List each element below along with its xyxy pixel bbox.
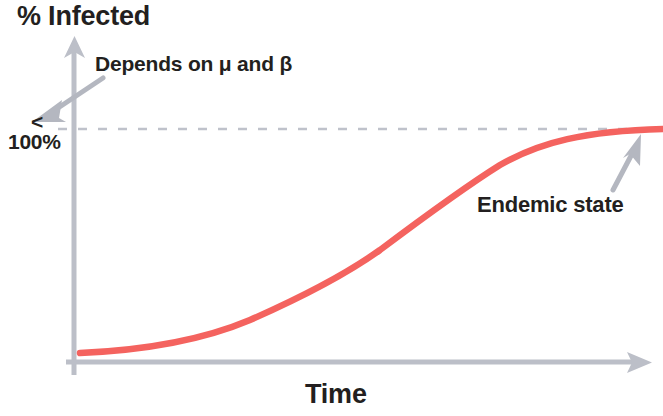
figure-canvas: % Infected Depends on μ and β < 100% End…: [0, 0, 663, 416]
threshold-value-label: 100%: [8, 131, 61, 152]
annotation-depends-label: Depends on μ and β: [95, 53, 292, 74]
annotation-endemic-label: Endemic state: [477, 194, 624, 216]
x-axis: [66, 352, 652, 373]
endemic-arrow-shaft: [613, 152, 633, 190]
y-axis: [64, 36, 85, 375]
x-axis-title: Time: [305, 381, 367, 408]
y-axis-title: % Infected: [17, 3, 150, 30]
threshold-caret-label: <: [31, 111, 43, 132]
endemic-annotation-arrow-icon: [613, 134, 641, 190]
infection-curve-line: [80, 129, 663, 353]
